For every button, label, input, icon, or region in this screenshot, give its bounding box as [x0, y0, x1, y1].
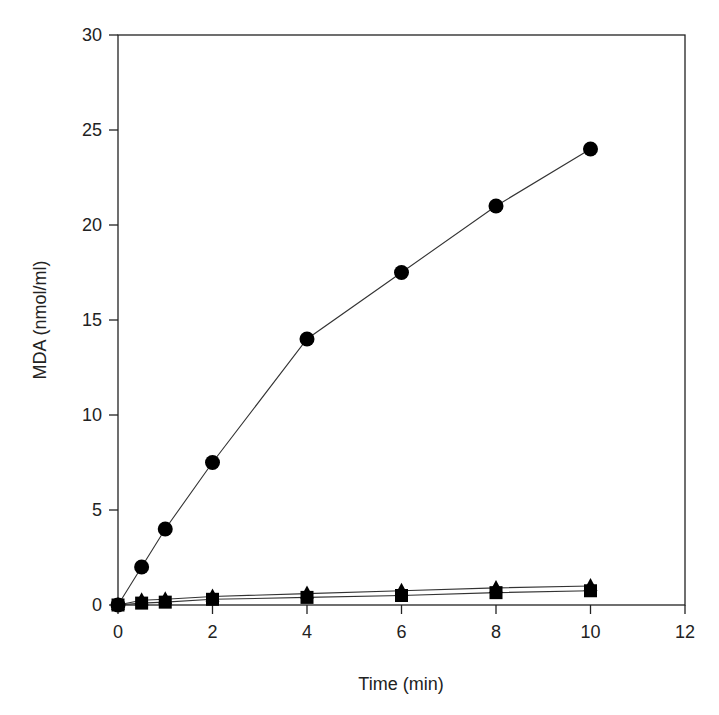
- y-tick-label: 25: [82, 120, 102, 140]
- y-tick-label: 0: [92, 595, 102, 615]
- y-tick-label: 30: [82, 25, 102, 45]
- series-line-circles: [118, 149, 591, 605]
- x-axis-title: Time (min): [358, 674, 443, 694]
- square-marker: [206, 593, 219, 606]
- square-marker: [490, 586, 503, 599]
- y-axis-title: MDA (nmol/ml): [30, 260, 50, 379]
- circle-marker: [300, 332, 315, 347]
- circle-marker: [205, 455, 220, 470]
- y-tick-label: 5: [92, 500, 102, 520]
- series-line-triangles: [118, 586, 591, 605]
- line-chart: 024681012051015202530 Time (min) MDA (nm…: [0, 0, 719, 715]
- x-tick-label: 12: [675, 622, 695, 642]
- x-tick-label: 6: [396, 622, 406, 642]
- x-tick-label: 2: [207, 622, 217, 642]
- square-marker: [584, 584, 597, 597]
- axis-ticks: 024681012051015202530: [82, 25, 695, 642]
- circle-marker: [134, 560, 149, 575]
- y-tick-label: 10: [82, 405, 102, 425]
- square-marker: [301, 591, 314, 604]
- x-tick-label: 0: [113, 622, 123, 642]
- square-marker: [112, 599, 125, 612]
- circle-marker: [583, 142, 598, 157]
- plot-frame: [118, 35, 685, 605]
- y-tick-label: 20: [82, 215, 102, 235]
- y-tick-label: 15: [82, 310, 102, 330]
- square-marker: [135, 597, 148, 610]
- square-marker: [395, 589, 408, 602]
- x-tick-label: 4: [302, 622, 312, 642]
- x-tick-label: 10: [580, 622, 600, 642]
- x-tick-label: 8: [491, 622, 501, 642]
- square-marker: [159, 596, 172, 609]
- circle-marker: [489, 199, 504, 214]
- circle-marker: [394, 265, 409, 280]
- plot-border: [118, 35, 685, 605]
- data-series: [111, 142, 599, 613]
- circle-marker: [158, 522, 173, 537]
